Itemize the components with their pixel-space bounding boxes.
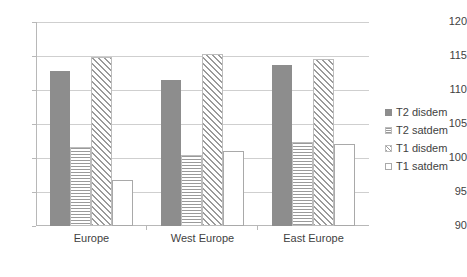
legend-item[interactable]: T2 satdem [385,122,465,138]
bar [223,151,244,226]
legend-swatch-icon [385,127,392,134]
x-axis-group-separator [257,226,258,230]
bar-chart: 9095100105110115120 EuropeWest EuropeEas… [0,0,467,277]
legend-swatch-icon [385,145,392,152]
legend-item[interactable]: T1 satdem [385,158,465,174]
bar [112,180,133,226]
x-axis-labels: EuropeWest EuropeEast Europe [36,232,369,245]
bar-group [147,22,258,226]
bar-groups [36,22,369,226]
y-axis-tick-label: 115 [437,50,467,61]
bar [50,71,70,226]
bar [70,147,91,226]
legend-item-label: T2 disdem [396,106,447,118]
legend-item-label: T1 disdem [396,142,447,154]
bar-group-bars [36,22,147,226]
bar [161,80,181,226]
bar [91,57,112,226]
bar-group [36,22,147,226]
bar [292,142,313,226]
legend-swatch-icon [385,163,392,170]
bar [313,59,334,226]
bar [272,65,292,226]
y-axis-tick-label: 90 [437,220,467,231]
chart-legend: T2 disdemT2 satdemT1 disdemT1 satdem [385,104,465,176]
legend-swatch-icon [385,109,392,116]
legend-item[interactable]: T2 disdem [385,104,465,120]
bar-group [258,22,369,226]
y-axis-tick-label: 120 [437,16,467,27]
bar [181,155,202,226]
bar [202,54,223,226]
x-axis-category-label: West Europe [147,232,258,245]
legend-item-label: T1 satdem [396,160,448,172]
legend-item[interactable]: T1 disdem [385,140,465,156]
legend-item-label: T2 satdem [396,124,448,136]
x-axis-category-label: East Europe [258,232,369,245]
bar [334,144,355,226]
bar-group-bars [258,22,369,226]
y-axis-tick-mark [32,226,36,227]
y-axis-tick-label: 95 [437,186,467,197]
x-axis-category-label: Europe [36,232,147,245]
bar-group-bars [147,22,258,226]
y-axis-tick-label: 110 [437,84,467,95]
x-axis-group-separator [146,226,147,230]
